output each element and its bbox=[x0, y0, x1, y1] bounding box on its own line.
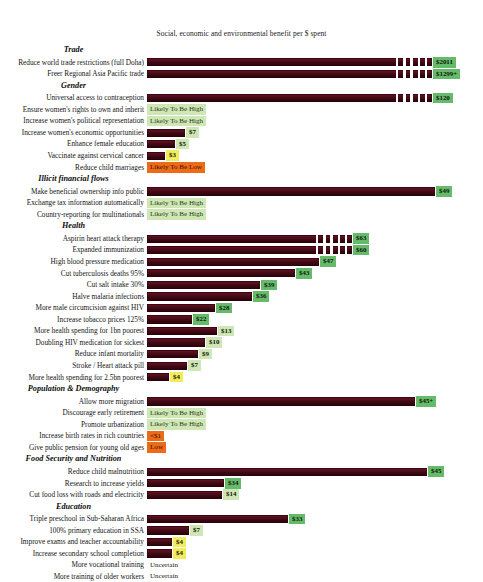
value-bar bbox=[147, 515, 288, 523]
chart-row: More health spending for 2.5bn poorest$4 bbox=[0, 372, 483, 384]
row-label: More male circumcision against HIV bbox=[0, 302, 144, 314]
bar-area: $7 bbox=[147, 127, 483, 139]
bar-area: Likely To Be High bbox=[147, 197, 483, 209]
bar-area: Uncertain bbox=[147, 571, 483, 582]
value-label: $47 bbox=[320, 256, 336, 267]
value-label: $34 bbox=[225, 478, 241, 489]
qualitative-label: Likely To Be High bbox=[147, 116, 206, 127]
value-label: $1299+ bbox=[433, 69, 460, 80]
value-label: $7 bbox=[186, 127, 199, 138]
bar-area: $4 bbox=[147, 536, 483, 548]
chart-row: Discourage early retirementLikely To Be … bbox=[0, 407, 483, 419]
row-label: Discourage early retirement bbox=[0, 407, 144, 419]
group-title: Food Security and Nutrition bbox=[0, 453, 147, 466]
row-label: Stroke / Heart attack pill bbox=[0, 360, 144, 372]
value-bar bbox=[147, 152, 165, 160]
chart-row: Give public pension for young old agesLo… bbox=[0, 442, 483, 454]
value-label: $120 bbox=[433, 93, 453, 104]
chart-row: Increase women's economic opportunities$… bbox=[0, 127, 483, 139]
bar-area: Likely To Be High bbox=[147, 115, 483, 127]
row-label: Promote urbanization bbox=[0, 419, 144, 431]
bar-area: $7 bbox=[147, 360, 483, 372]
bar-area: $63 bbox=[147, 233, 483, 245]
row-label: Give public pension for young old ages bbox=[0, 442, 144, 454]
chart-row: Country-reporting for multinationalsLike… bbox=[0, 209, 483, 221]
bar-area: Uncertain bbox=[147, 559, 483, 571]
value-label: $49 bbox=[436, 186, 452, 197]
value-label: $13 bbox=[218, 326, 234, 337]
value-label: $33 bbox=[289, 514, 305, 525]
qualitative-label: Likely To Be High bbox=[147, 104, 206, 115]
bar-area: $43 bbox=[147, 268, 483, 280]
bar-area: $22 bbox=[147, 314, 483, 326]
group-title: Trade bbox=[0, 44, 147, 57]
value-label: $36 bbox=[253, 291, 269, 302]
chart-row: Vaccinate against cervical cancer$3 bbox=[0, 150, 483, 162]
row-label: Reduce child marriages bbox=[0, 162, 144, 174]
bar-area: Likely To Be High bbox=[147, 407, 483, 419]
bar-area: $39 bbox=[147, 279, 483, 291]
chart-title: Social, economic and environmental benef… bbox=[0, 29, 483, 38]
value-bar bbox=[147, 468, 427, 476]
group-header-row: Education bbox=[0, 501, 483, 514]
bar-area: $45+ bbox=[147, 396, 483, 408]
value-label: $9 bbox=[199, 349, 212, 360]
qualitative-label: Uncertain bbox=[147, 571, 181, 582]
row-label: Allow more migration bbox=[0, 396, 144, 408]
value-bar bbox=[147, 258, 319, 266]
bar-area: Likely To Be Low bbox=[147, 162, 483, 174]
chart-row: Freer Regional Asia Pacific trade$1299+ bbox=[0, 68, 483, 80]
row-label: Freer Regional Asia Pacific trade bbox=[0, 68, 144, 80]
chart-row: Cut food loss with roads and electricity… bbox=[0, 489, 483, 501]
value-bar bbox=[147, 70, 432, 78]
chart-row: Increase women's political representatio… bbox=[0, 115, 483, 127]
bar-area: $34 bbox=[147, 478, 483, 490]
bar-area: $4 bbox=[147, 548, 483, 560]
value-bar bbox=[147, 94, 432, 102]
bar-area: $5 bbox=[147, 138, 483, 150]
bar-area: $3 bbox=[147, 150, 483, 162]
chart-row: Triple preschool in Sub-Saharan Africa$3… bbox=[0, 513, 483, 525]
row-label: Increase women's economic opportunities bbox=[0, 127, 144, 139]
value-label: $39 bbox=[261, 280, 277, 291]
value-bar bbox=[147, 315, 192, 323]
value-bar bbox=[147, 187, 435, 195]
qualitative-label: Likely To Be High bbox=[147, 198, 206, 209]
row-label: Cut tuberculosis deaths 95% bbox=[0, 268, 144, 280]
row-label: More vocational training bbox=[0, 559, 144, 571]
bar-area: $2011 bbox=[147, 57, 483, 69]
value-label: $3 bbox=[166, 150, 179, 161]
chart-row: Ensure women's rights to own and inherit… bbox=[0, 104, 483, 116]
group-header-row: Health bbox=[0, 220, 483, 233]
bar-area: $36 bbox=[147, 291, 483, 303]
value-label: $2011 bbox=[433, 57, 456, 68]
group-title: Gender bbox=[0, 80, 147, 93]
value-bar bbox=[147, 362, 187, 370]
row-label: More health spending for 2.5bn poorest bbox=[0, 372, 144, 384]
value-label: $28 bbox=[216, 303, 232, 314]
bar-area: $60 bbox=[147, 244, 483, 256]
row-label: Increase tobacco prices 125% bbox=[0, 314, 144, 326]
row-label: Research to increase yields bbox=[0, 478, 144, 490]
chart-row: Halve malaria infections$36 bbox=[0, 291, 483, 303]
chart-row: More health spending for 1bn poorest$13 bbox=[0, 325, 483, 337]
qualitative-label: Likely To Be High bbox=[147, 408, 206, 419]
chart-row: Aspirin heart attack therapy$63 bbox=[0, 233, 483, 245]
group-title: Education bbox=[0, 501, 147, 514]
bar-area: <$1 bbox=[147, 430, 483, 442]
value-label: $5 bbox=[176, 139, 189, 150]
value-label: $63 bbox=[353, 233, 369, 244]
chart-row: Increase secondary school completion$4 bbox=[0, 548, 483, 560]
group-header-row: Illicit financial flows bbox=[0, 173, 483, 186]
qualitative-label: Low bbox=[147, 442, 166, 453]
row-label: Ensure women's rights to own and inherit bbox=[0, 104, 144, 116]
chart-row: Make beneficial ownership info public$49 bbox=[0, 186, 483, 198]
value-bar bbox=[147, 338, 205, 346]
group-header-row: Trade bbox=[0, 44, 483, 57]
row-label: Increase birth rates in rich countries bbox=[0, 430, 144, 442]
row-label: Cut salt intake 30% bbox=[0, 279, 144, 291]
value-label: $4 bbox=[173, 537, 186, 548]
value-bar bbox=[147, 235, 352, 243]
bar-area: $45 bbox=[147, 466, 483, 478]
